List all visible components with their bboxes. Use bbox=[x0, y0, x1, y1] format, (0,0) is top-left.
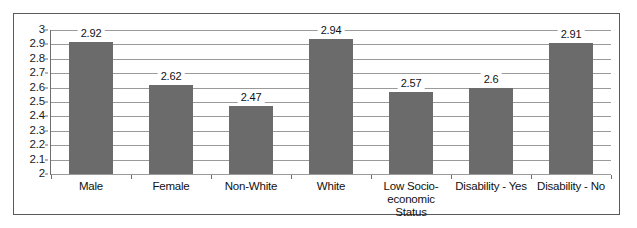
bar-value-label: 2.94 bbox=[318, 24, 345, 36]
category-label-line: economic Status bbox=[371, 193, 451, 219]
y-axis-tick-label: 2.6 bbox=[30, 82, 45, 94]
y-axis-tick-mark bbox=[45, 30, 48, 31]
y-axis-tick-label: 2.5 bbox=[30, 96, 45, 108]
x-axis-tick-marks bbox=[51, 175, 611, 179]
plot-area: 2.922.622.472.942.572.62.91 bbox=[51, 30, 611, 174]
x-axis-tick-mark bbox=[531, 175, 532, 179]
y-axis-tick-mark bbox=[45, 130, 48, 131]
y-axis-tick-labels: 32.92.82.72.62.52.42.32.22.12 bbox=[14, 30, 48, 174]
x-axis-tick-mark bbox=[211, 175, 212, 179]
x-axis-category-label: Low Socio-economic Status bbox=[371, 180, 451, 219]
category-label-line: Disability - Yes bbox=[451, 180, 531, 193]
bar[interactable] bbox=[389, 92, 433, 174]
y-axis-tick-label: 2.7 bbox=[30, 67, 45, 79]
bar-value-label: 2.6 bbox=[481, 73, 502, 85]
bar-slot: 2.6 bbox=[451, 30, 531, 174]
chart-plot-wrapper: 32.92.82.72.62.52.42.32.22.12 2.922.622.… bbox=[14, 14, 619, 214]
y-axis-tick-mark bbox=[45, 58, 48, 59]
y-axis-tick-label: 2.2 bbox=[30, 139, 45, 151]
x-axis-category-labels: MaleFemaleNon-WhiteWhiteLow Socio-econom… bbox=[51, 180, 611, 219]
y-axis-tick-mark bbox=[45, 116, 48, 117]
x-axis-category-label: Disability - Yes bbox=[451, 180, 531, 219]
bar[interactable] bbox=[309, 39, 353, 174]
bar-value-label: 2.62 bbox=[158, 70, 185, 82]
y-axis-tick-label: 2.3 bbox=[30, 125, 45, 137]
bar[interactable] bbox=[229, 106, 273, 174]
y-axis-tick-mark bbox=[45, 159, 48, 160]
y-axis-tick-label: 2.4 bbox=[30, 111, 45, 123]
y-axis-tick-mark bbox=[45, 44, 48, 45]
category-label-line: Disability - No bbox=[531, 180, 611, 193]
x-axis-tick-mark bbox=[371, 175, 372, 179]
category-label-line: Female bbox=[131, 180, 211, 193]
category-label-line: White bbox=[291, 180, 371, 193]
x-axis-category-label: Non-White bbox=[211, 180, 291, 219]
y-axis-tick-mark bbox=[45, 73, 48, 74]
x-axis-tick-mark bbox=[611, 175, 612, 179]
y-axis-tick-label: 2.1 bbox=[30, 154, 45, 166]
y-axis-tick-mark bbox=[45, 87, 48, 88]
bar[interactable] bbox=[469, 88, 513, 174]
x-axis-tick-mark bbox=[291, 175, 292, 179]
bar[interactable] bbox=[549, 43, 593, 174]
bar-slot: 2.91 bbox=[531, 30, 611, 174]
chart-frame: 32.92.82.72.62.52.42.32.22.12 2.922.622.… bbox=[13, 13, 620, 215]
x-axis-category-label: White bbox=[291, 180, 371, 219]
bar-slot: 2.92 bbox=[51, 30, 131, 174]
y-axis-tick-mark bbox=[45, 174, 48, 175]
x-axis-category-label: Female bbox=[131, 180, 211, 219]
y-axis-tick-label: 2.9 bbox=[30, 39, 45, 51]
category-label-line: Non-White bbox=[211, 180, 291, 193]
y-axis-tick-label: 2.8 bbox=[30, 53, 45, 65]
category-label-line: Low Socio- bbox=[371, 180, 451, 193]
y-axis-tick-mark bbox=[45, 102, 48, 103]
bar-value-label: 2.57 bbox=[398, 77, 425, 89]
bar-value-label: 2.47 bbox=[238, 91, 265, 103]
bar[interactable] bbox=[149, 85, 193, 174]
bar-value-label: 2.92 bbox=[78, 27, 105, 39]
x-axis-tick-mark bbox=[131, 175, 132, 179]
y-axis-tick-mark bbox=[45, 145, 48, 146]
bar-slot: 2.47 bbox=[211, 30, 291, 174]
bar-value-label: 2.91 bbox=[558, 28, 585, 40]
x-axis-tick-mark bbox=[51, 175, 52, 179]
bar[interactable] bbox=[69, 42, 113, 174]
x-axis-tick-mark bbox=[451, 175, 452, 179]
bars-layer: 2.922.622.472.942.572.62.91 bbox=[51, 30, 611, 174]
x-axis-category-label: Disability - No bbox=[531, 180, 611, 219]
bar-slot: 2.94 bbox=[291, 30, 371, 174]
bar-slot: 2.62 bbox=[131, 30, 211, 174]
bar-slot: 2.57 bbox=[371, 30, 451, 174]
category-label-line: Male bbox=[51, 180, 131, 193]
x-axis-category-label: Male bbox=[51, 180, 131, 219]
